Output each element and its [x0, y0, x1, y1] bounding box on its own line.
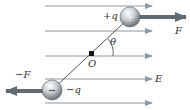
plus-sign-icon: + [126, 12, 134, 23]
diagram-canvas: + − [0, 0, 190, 110]
pivot-label: O [88, 59, 96, 69]
pivot-point-icon [89, 51, 94, 56]
force-negative-label: −F [15, 70, 30, 80]
angle-label: θ [110, 37, 116, 47]
force-positive-label: F [175, 26, 182, 36]
minus-sign-icon: − [48, 85, 56, 96]
field-label: E [155, 74, 162, 84]
negative-charge-label: −q [66, 85, 81, 95]
dipole-diagram: + − +q −q F −F O θ E [0, 0, 190, 110]
positive-charge-label: +q [103, 11, 118, 21]
